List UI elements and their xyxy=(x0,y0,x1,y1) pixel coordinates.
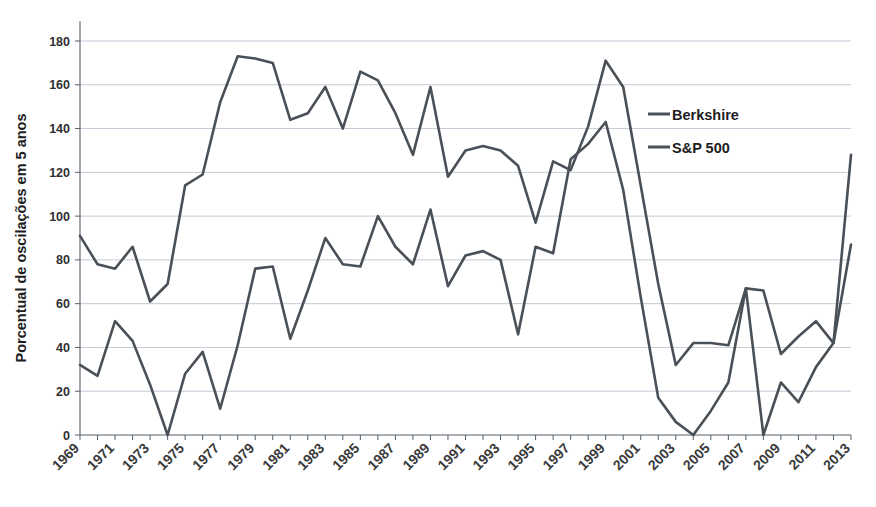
x-tick-label: 1985 xyxy=(329,440,362,473)
x-tick-label: 1989 xyxy=(399,440,432,473)
x-tick-label: 1997 xyxy=(539,440,572,473)
chart-legend[interactable]: BerkshireS&P 500 xyxy=(648,107,739,156)
axis-lines xyxy=(80,21,851,435)
y-axis-title: Porcentual de oscilações em 5 anos xyxy=(13,113,29,362)
x-tick-label: 2007 xyxy=(715,440,748,473)
x-axis-tick-labels: 1969197119731975197719791981198319851987… xyxy=(49,440,853,473)
x-tick-label: 1991 xyxy=(434,440,467,473)
x-tick-label: 2013 xyxy=(820,440,853,473)
y-axis-tick-labels: 020406080100120140160180 xyxy=(49,35,70,443)
x-tick-label: 1979 xyxy=(224,440,257,473)
x-tick-label: 2011 xyxy=(785,440,818,473)
series-line-s-p-500 xyxy=(80,122,851,435)
x-tick-label: 1969 xyxy=(49,440,82,473)
y-tick-label: 40 xyxy=(56,341,70,355)
line-chart: 020406080100120140160180 196919711973197… xyxy=(0,0,876,507)
x-tick-label: 2009 xyxy=(750,440,783,473)
axis-ticks xyxy=(75,41,851,440)
y-tick-label: 80 xyxy=(56,253,70,267)
x-tick-label: 2001 xyxy=(610,440,643,473)
legend-label-s-p-500[interactable]: S&P 500 xyxy=(672,140,730,156)
y-tick-label: 120 xyxy=(49,166,70,180)
x-tick-label: 1973 xyxy=(119,440,152,473)
x-tick-label: 1977 xyxy=(189,440,222,473)
legend-label-berkshire[interactable]: Berkshire xyxy=(672,107,739,123)
y-axis-title-text: Porcentual de oscilações em 5 anos xyxy=(13,113,29,362)
series-line-berkshire xyxy=(80,56,851,365)
x-tick-label: 1993 xyxy=(469,440,502,473)
x-tick-label: 1975 xyxy=(154,440,187,473)
x-tick-label: 1971 xyxy=(84,440,117,473)
chart-container: 020406080100120140160180 196919711973197… xyxy=(0,0,876,507)
x-tick-label: 1995 xyxy=(504,440,537,473)
x-tick-label: 1987 xyxy=(364,440,397,473)
y-tick-label: 140 xyxy=(49,122,70,136)
x-tick-label: 2005 xyxy=(680,440,713,473)
y-tick-label: 180 xyxy=(49,35,70,49)
x-tick-label: 1983 xyxy=(294,440,327,473)
x-tick-label: 1981 xyxy=(259,440,292,473)
y-tick-label: 100 xyxy=(49,210,70,224)
y-tick-label: 60 xyxy=(56,297,70,311)
x-tick-label: 2003 xyxy=(645,440,678,473)
y-tick-label: 160 xyxy=(49,78,70,92)
y-tick-label: 20 xyxy=(56,385,70,399)
x-tick-label: 1999 xyxy=(574,440,607,473)
